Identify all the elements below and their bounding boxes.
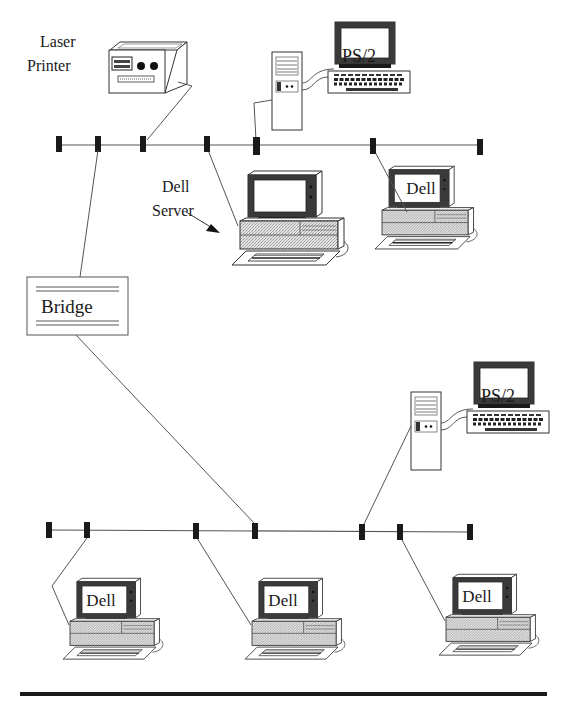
- dell-lower-1-screen-label: Dell: [86, 591, 116, 610]
- ps2-workstation-lower: PS/2: [364, 362, 549, 524]
- lower-segment: PS/2 Dell Dell Dell: [46, 362, 549, 659]
- printer-button-icon: [137, 62, 145, 70]
- laser-printer-label-line1: Laser: [40, 33, 76, 50]
- bus-terminator: [467, 524, 473, 540]
- dell-server-label-line2: Server: [152, 202, 194, 219]
- bus-terminator: [46, 522, 52, 538]
- bus-connector: [370, 138, 376, 154]
- ps2-upper-screen-label: PS/2: [342, 46, 376, 66]
- dell-pc-lower-2: Dell: [197, 538, 345, 659]
- bus-connector: [95, 136, 101, 152]
- bus-terminator: [477, 139, 483, 155]
- bus-connector: [204, 136, 210, 152]
- network-diagram: Laser Printer PS/2 Dell Server Dell: [0, 0, 569, 705]
- dell-pc-lower-1: Dell: [52, 538, 163, 659]
- dell-lower-2-screen-label: Dell: [268, 591, 298, 610]
- bus-connector: [359, 524, 365, 540]
- dell-server-label-line1: Dell: [162, 178, 190, 195]
- laser-printer: [109, 42, 192, 140]
- upper-segment: Laser Printer PS/2 Dell Server Dell: [27, 22, 483, 265]
- bus-terminator: [56, 136, 62, 152]
- dell-pc-upper-right: Dell: [374, 150, 477, 249]
- ps2-workstation-upper: PS/2: [254, 22, 410, 140]
- bottom-rule: [20, 692, 547, 696]
- dell-lower-3-screen-label: Dell: [462, 587, 492, 606]
- bridge-label: Bridge: [41, 296, 93, 317]
- bus-connector: [252, 523, 258, 539]
- dell-pc-lower-3: Dell: [401, 538, 539, 655]
- bridge: Bridge: [27, 150, 255, 524]
- laser-printer-label-line2: Printer: [27, 57, 71, 74]
- ps2-lower-screen-label: PS/2: [481, 386, 515, 406]
- dell-server: [186, 150, 348, 265]
- bus-connector: [253, 137, 260, 155]
- lower-bus-cable: [49, 530, 470, 532]
- bus-connector: [193, 523, 199, 539]
- bus-connector: [397, 524, 403, 540]
- dell-upper-right-screen-label: Dell: [406, 179, 436, 198]
- bus-connector: [140, 136, 146, 152]
- printer-button-icon: [150, 62, 158, 70]
- bus-connector: [84, 522, 90, 538]
